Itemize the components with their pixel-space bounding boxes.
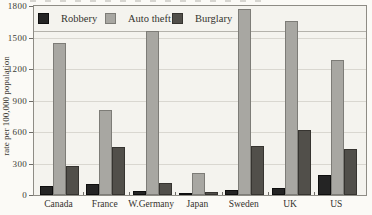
bar-canada-auto-theft [53,43,66,195]
x-axis-tick-1 [129,192,130,195]
cropped-print-artifact [30,0,262,2]
x-axis-tick-0 [83,192,84,195]
bar-canada-burglary [66,166,79,195]
bar-uk-burglary [298,130,311,195]
y-tick-label-600: 600 [1,127,27,137]
bar-uk-robbery [272,188,285,195]
bar-japan-auto-theft [192,173,205,195]
y-tick-label-300: 300 [1,159,27,169]
bar-w-germany-burglary [159,183,172,195]
legend-label: Burglary [195,13,232,24]
gridline-1200 [34,69,366,70]
y-tick-label-1200: 1200 [1,64,27,74]
plot-area: RobberyAuto theftBurglary [33,5,367,196]
legend-swatch-burglary [172,13,183,24]
bar-sweden-robbery [225,190,238,195]
y-tick-label-1800: 1800 [1,1,27,11]
x-axis-tick-3 [222,192,223,195]
bar-france-auto-theft [99,110,112,195]
bar-japan-robbery [179,193,192,195]
bar-france-robbery [86,184,99,195]
x-axis-tick-4 [268,192,269,195]
bar-us-burglary [344,149,357,195]
x-axis-tick-2 [175,192,176,195]
y-tick-label-1500: 1500 [1,33,27,43]
bar-us-robbery [318,175,331,195]
bar-w-germany-auto-theft [146,31,159,195]
y-axis-title: rate per 100,000 population [1,36,13,176]
x-axis-tick-5 [314,192,315,195]
x-label-w-germany: W.Germany [128,199,174,209]
legend-swatch-robbery [38,13,49,24]
legend-item-burglary: Burglary [172,13,232,24]
x-label-canada: Canada [44,199,73,209]
x-label-france: France [92,199,118,209]
crime-rate-bar-chart: rate per 100,000 population 030060090012… [0,0,372,215]
legend-item-auto-theft: Auto theft [105,13,171,24]
y-tick-label-0: 0 [1,190,27,200]
bar-us-auto-theft [331,60,344,195]
legend-label: Robbery [61,13,97,24]
bar-sweden-auto-theft [238,9,251,195]
gridline-600 [34,132,366,133]
legend-swatch-auto-theft [105,13,116,24]
bar-france-burglary [112,147,125,195]
gridline-900 [34,101,366,102]
y-tick-label-900: 900 [1,96,27,106]
bar-japan-burglary [205,192,218,195]
x-label-uk: UK [283,199,297,209]
gridline-1500 [34,38,366,39]
legend-label: Auto theft [128,13,171,24]
gridline-300 [34,164,366,165]
legend: RobberyAuto theftBurglary [34,6,366,32]
x-label-us: US [330,199,342,209]
x-label-japan: Japan [187,199,209,209]
bar-w-germany-robbery [133,191,146,195]
legend-item-robbery: Robbery [38,13,97,24]
x-label-sweden: Sweden [229,199,259,209]
bar-uk-auto-theft [285,21,298,195]
bar-canada-robbery [40,186,53,195]
bar-sweden-burglary [251,146,264,195]
